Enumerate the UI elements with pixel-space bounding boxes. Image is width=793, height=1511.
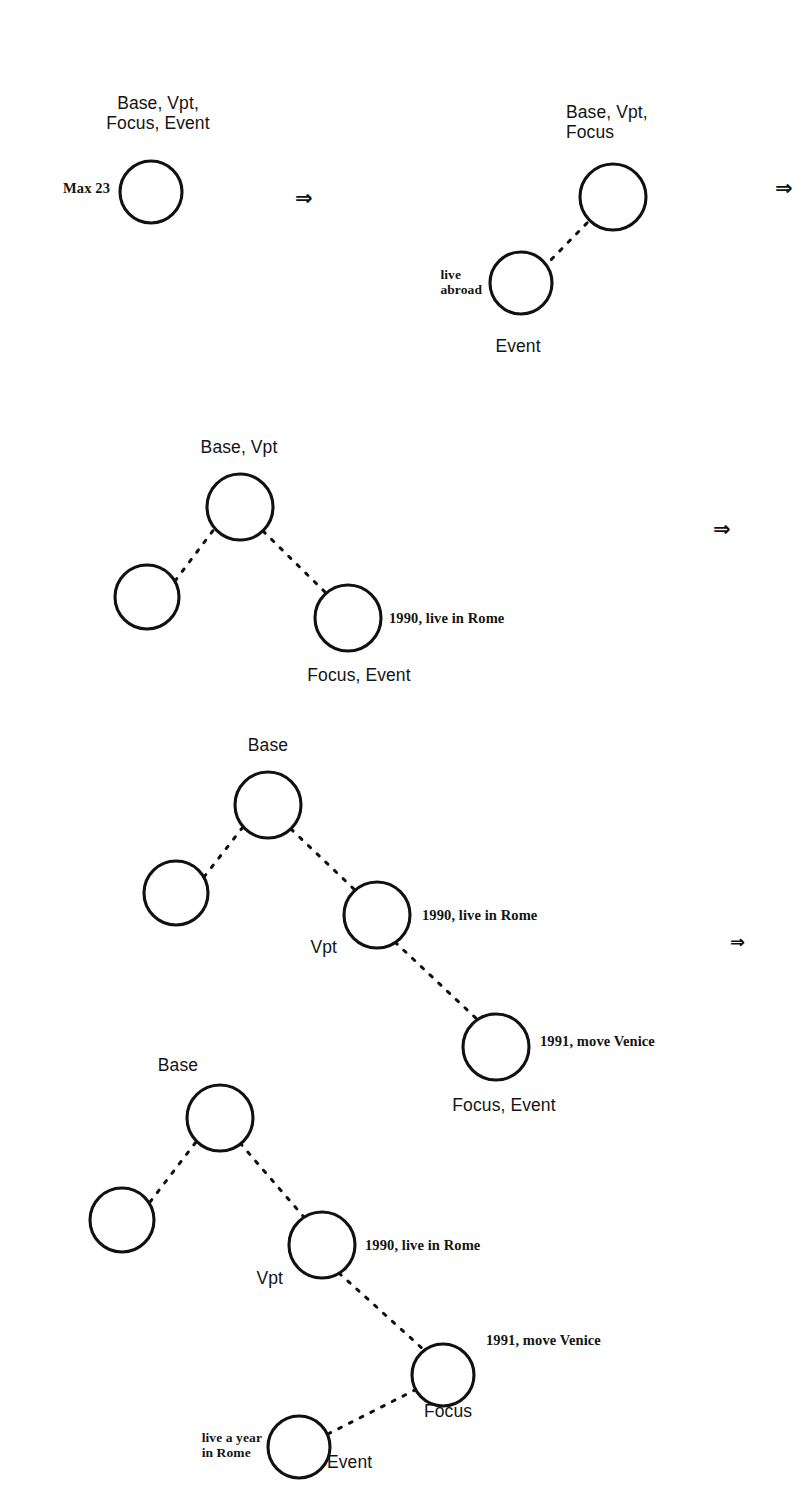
stage3-edge-base-to-focus: [263, 531, 327, 594]
stage5-vpt-label: Vpt: [256, 1269, 283, 1289]
stage1-max-tag: Max 23: [63, 180, 110, 196]
stage4-bottom-label: Focus, Event: [452, 1096, 555, 1116]
stage5-top-label: Base: [158, 1056, 198, 1076]
stage5-edge-event-to-focus: [328, 1390, 415, 1434]
transition-arrow-2-icon: ⇒: [775, 178, 793, 199]
stage-2-group: [490, 164, 646, 314]
stage-1-group: [120, 161, 182, 223]
stage3-node-base-vpt[interactable]: [207, 474, 273, 540]
stage3-top-label: Base, Vpt: [201, 438, 278, 458]
stage4-node-past[interactable]: [144, 861, 208, 925]
stage5-focus-annotation: 1991, move Venice: [486, 1332, 601, 1348]
stage4-edge-past-to-base: [204, 827, 243, 877]
stage2-node-event[interactable]: [490, 252, 552, 314]
stage4-node-base[interactable]: [235, 772, 301, 838]
stage5-edge-base-to-vpt: [240, 1143, 303, 1216]
stage3-node-focus-event[interactable]: [315, 585, 381, 651]
stage2-bottom-label: Event: [495, 337, 540, 357]
stage-4-group: [144, 772, 529, 1080]
stage5-edge-vpt-to-focus: [339, 1273, 424, 1350]
stage2-node-base-vpt-focus[interactable]: [580, 164, 646, 230]
stage4-vpt-annotation: 1990, live in Rome: [422, 907, 537, 923]
stage5-vpt-annotation: 1990, live in Rome: [365, 1237, 480, 1253]
stage5-event-label: Event: [327, 1453, 372, 1473]
stage5-focus-label: Focus: [424, 1402, 472, 1422]
stage2-edge-event-to-base: [543, 222, 588, 268]
stage3-right-annotation: 1990, live in Rome: [389, 610, 504, 626]
stage3-edge-past-to-base: [175, 528, 215, 581]
stage4-focus-annotation: 1991, move Venice: [540, 1033, 655, 1049]
stage5-node-past[interactable]: [90, 1188, 154, 1252]
stage4-top-label: Base: [248, 736, 288, 756]
stage5-node-event[interactable]: [268, 1416, 330, 1478]
stage4-vpt-label: Vpt: [310, 938, 337, 958]
stage-3-group: [115, 474, 381, 651]
stage4-node-vpt[interactable]: [344, 882, 410, 948]
stage5-event-annotation: live a year in Rome: [202, 1430, 262, 1460]
stage1-top-label: Base, Vpt, Focus, Event: [106, 94, 209, 133]
stage5-node-vpt[interactable]: [289, 1212, 355, 1278]
transition-arrow-3-icon: ⇒: [713, 519, 731, 540]
stage2-top-label: Base, Vpt, Focus: [566, 103, 648, 142]
transition-arrow-4-icon: ⇒: [730, 933, 745, 951]
stage5-node-focus[interactable]: [412, 1344, 474, 1406]
stage5-edge-past-to-base: [150, 1142, 196, 1202]
stage3-bottom-label: Focus, Event: [307, 666, 410, 686]
stage4-edge-base-to-vpt: [291, 829, 356, 891]
stage3-node-past[interactable]: [115, 565, 179, 629]
stage4-edge-vpt-to-focus: [395, 942, 479, 1021]
stage4-node-focus-event[interactable]: [463, 1014, 529, 1080]
stage2-event-annotation: live abroad: [440, 267, 482, 297]
stage1-node-root[interactable]: [120, 161, 182, 223]
transition-arrow-1-icon: ⇒: [295, 188, 313, 209]
stage5-node-base[interactable]: [187, 1085, 253, 1151]
